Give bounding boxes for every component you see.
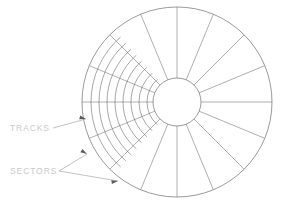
callout-arrow-icon — [80, 149, 87, 154]
disk-diagram: TRACKS SECTORS — [0, 0, 282, 208]
disk-hub-circle — [153, 78, 201, 126]
callout-leader-line — [59, 154, 87, 171]
callout-leaders-group — [53, 115, 118, 184]
sector-lines-group — [82, 7, 272, 197]
sectors-label: SECTORS — [10, 166, 57, 176]
callout-leader-line — [59, 171, 118, 181]
disk-diagram-canvas: TRACKS SECTORS — [0, 0, 282, 208]
tracks-label: TRACKS — [10, 123, 50, 133]
callout-arrow-icon — [79, 115, 86, 119]
callout-leader-line — [53, 119, 86, 128]
